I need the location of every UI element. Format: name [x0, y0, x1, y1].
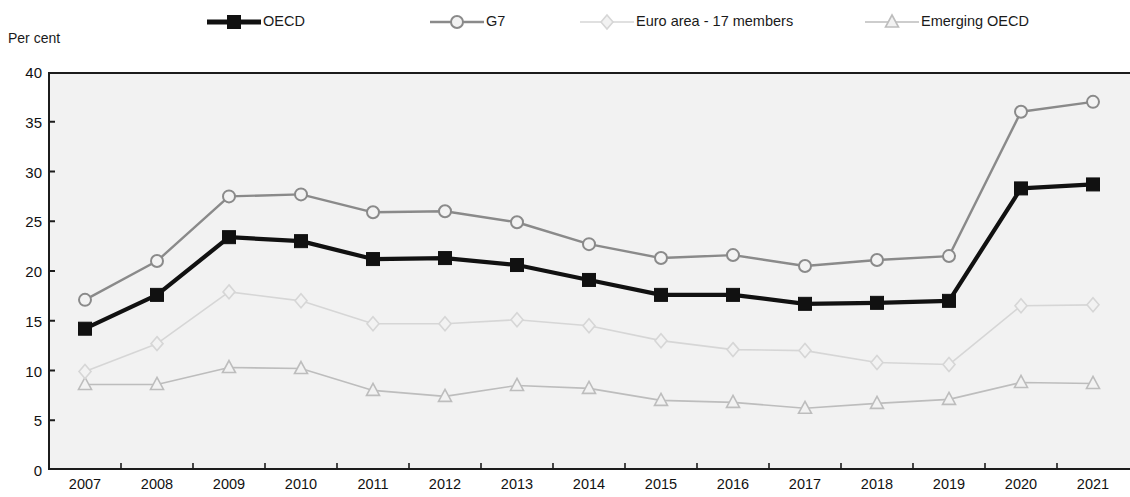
x-axis-tick-label: 2009 [213, 476, 245, 492]
x-axis-tick-label: 2016 [717, 476, 749, 492]
legend-marker-squarefilled-icon [207, 13, 261, 29]
chart-plot-container: 0510152025303540200720082009201020112012… [0, 52, 1130, 497]
y-axis-tick-label: 25 [0, 213, 42, 230]
x-axis-tick-label: 2010 [285, 476, 317, 492]
legend-label: Emerging OECD [921, 12, 1029, 30]
legend-marker-triangleopen-icon [865, 13, 919, 29]
x-axis-tick-label: 2018 [861, 476, 893, 492]
y-axis-tick-label: 10 [0, 362, 42, 379]
legend-item-euro: Euro area - 17 members [580, 12, 793, 30]
x-axis-tick-label: 2012 [429, 476, 461, 492]
x-axis-tick-label: 2015 [645, 476, 677, 492]
x-axis-tick-label: 2014 [573, 476, 605, 492]
x-axis-tick-label: 2007 [69, 476, 101, 492]
legend-label: G7 [486, 12, 505, 30]
legend-marker-diamondopen-icon [580, 13, 634, 29]
legend-marker-circleopen-icon [430, 13, 484, 29]
chart-legend: OECDG7Euro area - 17 membersEmerging OEC… [0, 0, 1130, 40]
x-axis-tick-label: 2011 [357, 476, 388, 492]
legend-label: Euro area - 17 members [636, 12, 793, 30]
y-axis-tick-label: 30 [0, 163, 42, 180]
legend-item-g7: G7 [430, 12, 505, 30]
y-axis-tick-label: 15 [0, 312, 42, 329]
chart-screenshot: OECDG7Euro area - 17 membersEmerging OEC… [0, 0, 1130, 497]
x-axis-tick-label: 2008 [141, 476, 173, 492]
y-axis-tick-label: 40 [0, 64, 42, 81]
x-axis-tick-label: 2013 [501, 476, 533, 492]
y-axis-unit-label: Per cent [8, 30, 60, 46]
legend-item-emerging: Emerging OECD [865, 12, 1029, 30]
chart-series-svg [0, 52, 1130, 497]
legend-item-oecd: OECD [207, 12, 305, 30]
x-axis-tick-label: 2020 [1005, 476, 1037, 492]
x-axis-tick-label: 2017 [789, 476, 821, 492]
y-axis-tick-label: 5 [0, 412, 42, 429]
x-axis-tick-label: 2021 [1077, 476, 1109, 492]
y-axis-tick-label: 0 [0, 462, 42, 479]
y-axis-tick-label: 20 [0, 263, 42, 280]
y-axis-tick-label: 35 [0, 113, 42, 130]
legend-label: OECD [263, 12, 305, 30]
x-axis-tick-label: 2019 [933, 476, 965, 492]
